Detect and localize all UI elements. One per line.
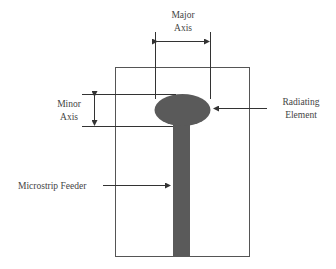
feeder-label: Microstrip Feeder — [18, 181, 87, 191]
radiating-label-1: Radiating — [283, 97, 320, 107]
radiating-element — [155, 94, 211, 126]
major-axis-label-2: Axis — [174, 23, 192, 33]
minor-axis-label-1: Minor — [57, 99, 82, 109]
radiating-label-2: Element — [285, 110, 317, 120]
microstrip-feeder — [173, 118, 190, 257]
major-axis-label-1: Major — [171, 10, 195, 20]
minor-axis-label-2: Axis — [60, 112, 78, 122]
antenna-diagram: Major Axis Minor Axis Radiating Element … — [0, 0, 336, 269]
